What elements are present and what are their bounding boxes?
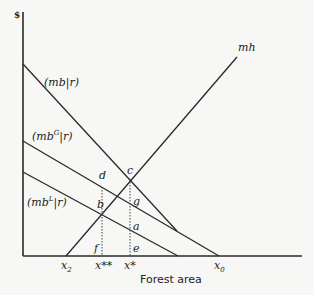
mh-label: mh bbox=[238, 41, 256, 54]
x-axis-title: Forest area bbox=[140, 273, 202, 286]
mbL-tail: |r) bbox=[53, 196, 66, 209]
mbG-base: (mb bbox=[32, 130, 54, 143]
tick-xss: x** bbox=[95, 259, 112, 272]
mbL-r-line bbox=[23, 172, 178, 256]
point-d: d bbox=[99, 169, 106, 182]
mb-r-label: (mb|r) bbox=[44, 76, 79, 89]
tick-xs: x* bbox=[124, 259, 136, 272]
tick-x0: x0 bbox=[214, 259, 225, 274]
point-e: e bbox=[133, 242, 140, 255]
mbG-r-label: (mbG|r) bbox=[32, 129, 73, 143]
point-g: g bbox=[133, 195, 140, 208]
mh-line bbox=[66, 57, 237, 256]
x0-sub: 0 bbox=[220, 266, 224, 274]
point-b: b bbox=[97, 198, 104, 211]
point-a: a bbox=[133, 220, 140, 233]
tick-x2: x2 bbox=[61, 259, 72, 274]
mbL-base: (mb bbox=[27, 196, 49, 209]
point-f: f bbox=[94, 242, 98, 255]
diagram-canvas bbox=[0, 0, 314, 295]
mbG-tail: |r) bbox=[59, 130, 72, 143]
x2-sub: 2 bbox=[67, 266, 71, 274]
y-axis-label: $ bbox=[14, 10, 20, 20]
mbL-r-label: (mbL|r) bbox=[27, 195, 67, 209]
point-c: c bbox=[127, 164, 133, 177]
